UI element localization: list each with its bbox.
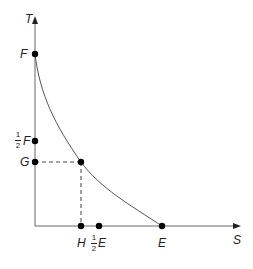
point-half-f [32, 138, 38, 144]
fraction-numerator: 1 [16, 130, 20, 139]
label-half-e-fraction: 12 [90, 234, 98, 253]
point-h [78, 223, 84, 229]
point-f [32, 51, 38, 57]
label-half-f-fraction: 12 [14, 131, 22, 150]
label-half-f: F [23, 135, 30, 147]
t-axis-arrow-icon [32, 16, 38, 24]
t-axis-label: T [25, 13, 32, 25]
curve [35, 54, 162, 226]
fraction-denominator: 2 [16, 141, 20, 150]
point-e [159, 223, 165, 229]
diagram-canvas [0, 0, 253, 269]
fraction-denominator: 2 [92, 244, 96, 253]
label-h: H [77, 237, 86, 249]
label-f: F [20, 48, 27, 60]
label-g: G [20, 156, 29, 168]
point-curve-gh [78, 159, 84, 165]
point-half-e [96, 223, 102, 229]
s-axis-arrow-icon [233, 223, 241, 229]
s-axis-label: S [233, 234, 241, 246]
point-g [32, 159, 38, 165]
label-half-e: E [98, 237, 106, 249]
fraction-numerator: 1 [92, 233, 96, 242]
label-e: E [158, 237, 166, 249]
